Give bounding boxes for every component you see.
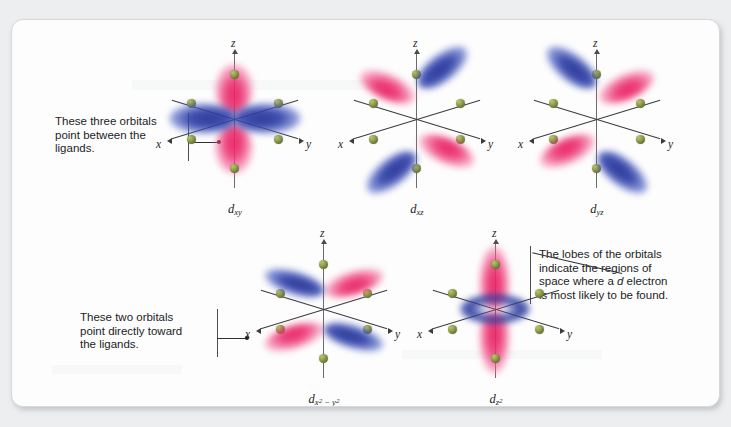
orbital-dz2-stage: z x y xyxy=(416,232,576,387)
axis-label-z: z xyxy=(413,37,417,49)
orbital-dxz-caption: dxz xyxy=(337,202,497,217)
axis-label-y: y xyxy=(395,328,400,340)
ligand-sphere xyxy=(230,70,239,79)
ligand-sphere xyxy=(535,289,544,298)
axis-z-arrow xyxy=(594,49,600,54)
orbital-subscript: xz xyxy=(417,207,424,217)
axis-y-arrow xyxy=(560,328,565,334)
ligand-sphere xyxy=(636,135,645,144)
orbital-subscript: x2 − y2 xyxy=(315,397,340,407)
subscript-exponent: 2 xyxy=(336,397,340,405)
orbital-dxy: z x y dxy xyxy=(155,42,315,217)
axis-label-x: x xyxy=(156,138,161,150)
ligand-sphere xyxy=(456,99,465,108)
ligand-sphere xyxy=(448,289,457,298)
lobe-pink-axis-positive xyxy=(320,262,386,303)
axis-y-arrow xyxy=(299,138,304,144)
axis-y-arrow xyxy=(661,138,666,144)
axis-y-arrow xyxy=(388,328,393,334)
axis-y-arrow xyxy=(481,138,486,144)
axis-label-y: y xyxy=(668,138,673,150)
orbital-dx2y2-stage: z x y xyxy=(244,232,404,387)
axis-label-x: x xyxy=(417,328,422,340)
axis-label-z: z xyxy=(492,227,496,239)
axis-label-x: x xyxy=(518,138,523,150)
orbital-dxz-stage: z x y xyxy=(337,42,497,197)
axis-x-arrow xyxy=(167,138,172,144)
axis-x-arrow xyxy=(349,138,354,144)
ligand-sphere xyxy=(535,325,544,334)
axis-label-z: z xyxy=(320,227,324,239)
ligand-sphere xyxy=(549,99,558,108)
axis-label-x: x xyxy=(245,328,250,340)
orbital-subscript: z2 xyxy=(496,397,503,407)
ligand-sphere xyxy=(448,325,457,334)
axis-label-z: z xyxy=(231,37,235,49)
axis-x-arrow xyxy=(256,328,261,334)
ligand-sphere xyxy=(187,135,196,144)
lobe-blue-torus xyxy=(460,294,530,324)
ligand-sphere xyxy=(491,260,500,269)
orbital-subscript: yz xyxy=(597,207,604,217)
ligand-sphere xyxy=(274,135,283,144)
orbital-dz2: z x y dz2 xyxy=(416,232,576,407)
axis-z-arrow xyxy=(414,49,420,54)
orbital-dx2y2-caption: dx2 − y2 xyxy=(244,392,404,407)
lobe-pink-axis-negative xyxy=(261,317,327,358)
callout-two-orbitals-rule xyxy=(217,309,218,357)
axis-z-arrow xyxy=(493,239,499,244)
orbital-dxy-caption: dxy xyxy=(155,202,315,217)
ligand-sphere xyxy=(491,354,500,363)
lobe-blue-lower-right xyxy=(590,143,655,202)
subscript-middle: − y xyxy=(322,397,336,407)
axis-label-z: z xyxy=(593,37,597,49)
orbital-subscript: xy xyxy=(234,207,242,217)
axis-label-y: y xyxy=(567,328,572,340)
lobe-blue-axis-positive xyxy=(320,317,386,358)
lobe-blue-left xyxy=(169,103,237,134)
callout-two-orbitals-leader xyxy=(217,338,247,339)
lobe-blue-upper-right xyxy=(410,38,475,97)
axis-x-arrow xyxy=(529,138,534,144)
orbital-dyz-stage: z x y xyxy=(517,42,677,197)
orbital-dyz: z x y dyz xyxy=(517,42,677,217)
axis-z-arrow xyxy=(321,239,327,244)
axis-label-x: x xyxy=(338,138,343,150)
orbital-dyz-caption: dyz xyxy=(517,202,677,217)
ligand-sphere xyxy=(319,354,328,363)
axis-label-y: y xyxy=(488,138,493,150)
callout-two-orbitals-text: These two orbitals point directly toward… xyxy=(80,311,182,350)
ligand-sphere xyxy=(319,260,328,269)
figure-card: These three orbitals point between the l… xyxy=(11,19,720,407)
ligand-sphere xyxy=(636,99,645,108)
ligand-sphere xyxy=(369,99,378,108)
callout-two-orbitals: These two orbitals point directly toward… xyxy=(80,311,212,352)
axis-label-y: y xyxy=(306,138,311,150)
orbital-dz2-caption: dz2 xyxy=(416,392,576,407)
ligand-sphere xyxy=(230,164,239,173)
orbital-dxz: z x y dxz xyxy=(337,42,497,217)
lobe-blue-axis-negative xyxy=(261,262,327,303)
ligand-sphere xyxy=(369,135,378,144)
orbital-dx2y2: z x y dx2 − y2 xyxy=(244,232,404,407)
page-bleed-artifact xyxy=(52,365,182,374)
lobe-blue-right xyxy=(233,103,301,134)
subscript-exponent: 2 xyxy=(499,397,503,405)
axis-z-arrow xyxy=(232,49,238,54)
orbital-dxy-stage: z x y xyxy=(155,42,315,197)
callout-three-orbitals-text: These three orbitals point between the l… xyxy=(55,115,157,154)
axis-x-arrow xyxy=(428,328,433,334)
